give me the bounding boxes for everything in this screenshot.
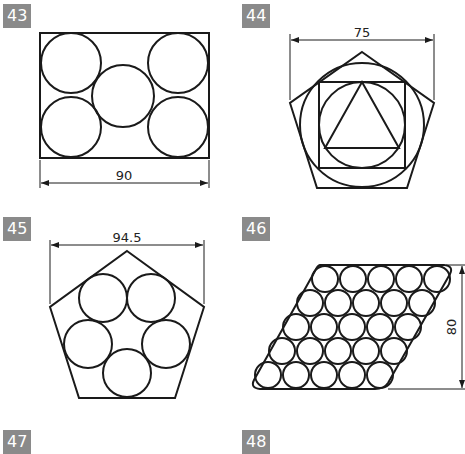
dimension-label: 80 <box>444 319 459 336</box>
figure-43-drawing <box>40 33 209 158</box>
figure-46-drawing <box>253 265 451 389</box>
dimension-label: 75 <box>354 25 371 40</box>
dimension-label: 90 <box>116 168 133 183</box>
figure-45-drawing <box>50 251 204 398</box>
figure-44-drawing <box>290 52 434 188</box>
dimension-label: 94.5 <box>113 230 142 245</box>
